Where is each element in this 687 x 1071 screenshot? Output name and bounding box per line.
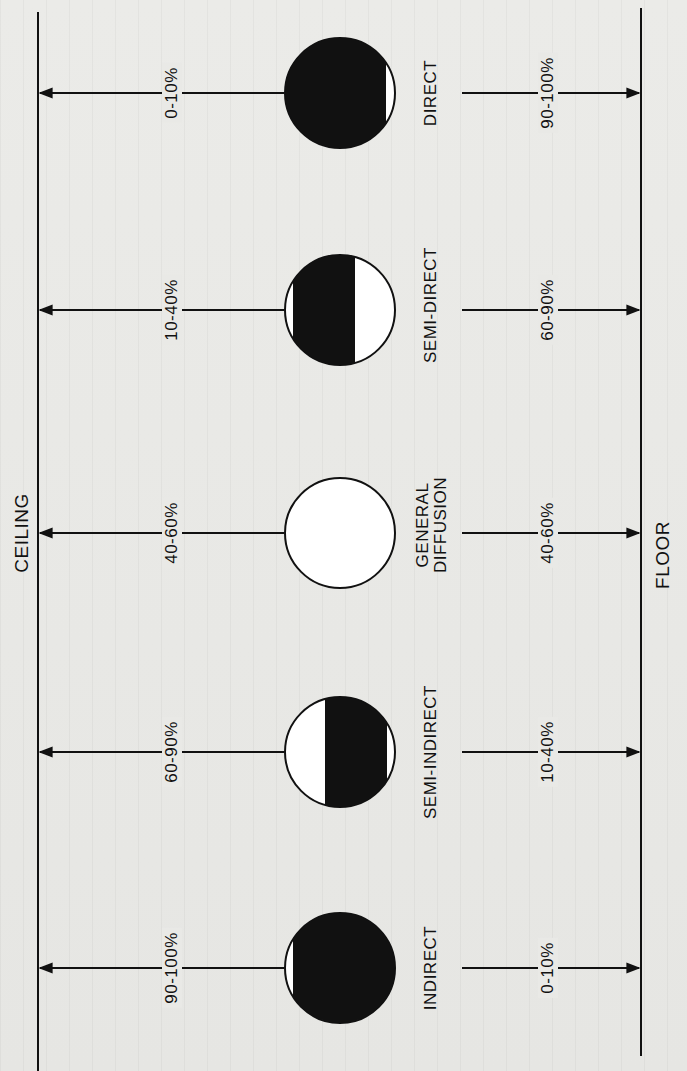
floor-percent-label: 90-100% xyxy=(538,53,558,133)
semi-indirect-luminaire-icon xyxy=(285,690,395,815)
lighting-type-label: DIRECT xyxy=(422,60,439,126)
ceiling-percent-label: 40-60% xyxy=(162,498,182,568)
floor-percent-label: 60-90% xyxy=(538,275,558,345)
ceiling-percent-label: 90-100% xyxy=(162,928,182,1008)
ceiling-label: CEILING xyxy=(11,493,33,573)
lighting-distribution-diagram xyxy=(0,0,687,1071)
lighting-type-label: INDIRECT xyxy=(422,926,439,1010)
ceiling-percent-label: 0-10% xyxy=(162,63,182,123)
floor-label: FLOOR xyxy=(652,521,674,589)
semi-direct-luminaire-icon xyxy=(285,250,395,370)
general-diffusion-luminaire-icon xyxy=(285,478,395,588)
indirect-luminaire-icon xyxy=(285,905,399,1035)
floor-percent-label: 40-60% xyxy=(538,498,558,568)
ceiling-percent-label: 10-40% xyxy=(162,275,182,345)
lighting-type-label: SEMI-INDIRECT xyxy=(422,685,439,819)
floor-percent-label: 0-10% xyxy=(538,938,558,998)
floor-percent-label: 10-40% xyxy=(538,717,558,787)
lighting-type-label-line2: DIFFUSION xyxy=(432,477,449,573)
ceiling-percent-label: 60-90% xyxy=(162,717,182,787)
lighting-type-label: SEMI-DIRECT xyxy=(422,247,439,363)
direct-luminaire-icon xyxy=(280,30,395,160)
lighting-type-label: GENERAL xyxy=(414,483,431,568)
